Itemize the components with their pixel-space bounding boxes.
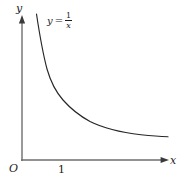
y-axis bbox=[19, 15, 25, 161]
equation-fraction: 1 x bbox=[65, 12, 72, 30]
curve-reciprocal bbox=[37, 14, 169, 137]
equation-equals-sign: = bbox=[55, 16, 63, 26]
x-axis-tick-label-1: 1 bbox=[58, 164, 65, 175]
y-axis-arrowhead-icon bbox=[19, 15, 25, 23]
graph-figure: y x O 1 y = 1 x bbox=[0, 0, 181, 185]
x-axis bbox=[21, 157, 169, 163]
curve-equation-label: y = 1 x bbox=[47, 12, 72, 30]
y-axis-label: y bbox=[16, 3, 22, 14]
fraction-numerator: 1 bbox=[65, 12, 72, 21]
origin-label: O bbox=[9, 163, 18, 174]
equation-lhs: y bbox=[47, 16, 53, 26]
x-axis-arrowhead-icon bbox=[161, 157, 169, 163]
fraction-denominator: x bbox=[65, 21, 72, 30]
plot-canvas bbox=[0, 0, 181, 185]
x-axis-label: x bbox=[170, 155, 176, 166]
